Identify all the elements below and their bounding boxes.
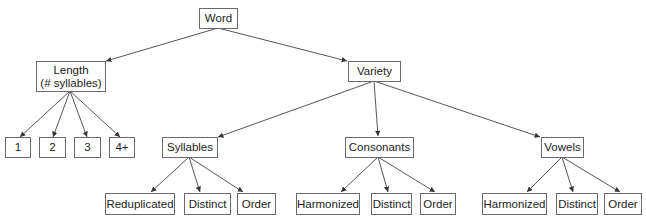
edge-layer [0, 0, 646, 216]
node-word: Word [199, 8, 238, 29]
node-label: Order [423, 198, 452, 211]
node-label: Word [205, 12, 232, 25]
node-label: Length (# syllables) [40, 64, 101, 90]
edge-variety-syllables [218, 81, 374, 137]
node-vowels: Vowels [541, 137, 584, 158]
edge-con-harm [341, 157, 378, 192]
node-label: Order [608, 198, 637, 211]
edge-syl-order [189, 157, 243, 192]
node-vowels-distinct: Distinct [556, 193, 598, 215]
node-label: Syllables [167, 141, 213, 154]
edge-word-variety [218, 28, 347, 61]
node-label: Consonants [349, 141, 410, 154]
node-label: 3 [84, 141, 90, 154]
edge-variety-consonants [374, 81, 378, 136]
node-label: Reduplicated [106, 198, 173, 211]
edge-syl-redup [151, 157, 189, 192]
edge-length-1 [20, 91, 70, 137]
node-label: Distinct [558, 198, 596, 211]
node-label: 4+ [115, 141, 128, 154]
node-variety: Variety [348, 61, 401, 82]
node-syllables-reduplicated: Reduplicated [105, 193, 175, 215]
edge-word-length [106, 28, 218, 61]
node-label: Variety [357, 65, 392, 78]
node-length-1: 1 [5, 137, 31, 158]
edge-vow-order [562, 157, 620, 192]
node-label: Distinct [373, 198, 411, 211]
edge-length-3 [70, 91, 87, 137]
node-syllables: Syllables [162, 137, 218, 158]
node-label: 1 [15, 141, 21, 154]
node-label: Order [242, 198, 271, 211]
node-label: Distinct [189, 198, 227, 211]
node-label: Vowels [544, 141, 580, 154]
node-syllables-order: Order [237, 193, 276, 215]
node-length-2: 2 [39, 137, 66, 158]
edge-syl-distinct [189, 157, 200, 192]
node-syllables-distinct: Distinct [184, 193, 231, 215]
node-length-4plus: 4+ [109, 137, 135, 158]
node-label: Harmonized [484, 198, 546, 211]
node-consonants-order: Order [420, 193, 456, 215]
node-length: Length (# syllables) [36, 61, 106, 92]
edge-variety-vowels [374, 81, 540, 137]
node-vowels-harmonized: Harmonized [482, 193, 547, 215]
node-consonants-harmonized: Harmonized [296, 193, 360, 215]
node-consonants-distinct: Distinct [371, 193, 412, 215]
edge-length-4 [70, 91, 120, 137]
edge-length-2 [53, 91, 70, 137]
node-consonants: Consonants [345, 137, 414, 158]
node-label: 2 [49, 141, 55, 154]
edge-vow-harm [527, 157, 562, 192]
node-label: Harmonized [297, 198, 359, 211]
node-length-3: 3 [74, 137, 101, 158]
node-vowels-order: Order [604, 193, 642, 215]
